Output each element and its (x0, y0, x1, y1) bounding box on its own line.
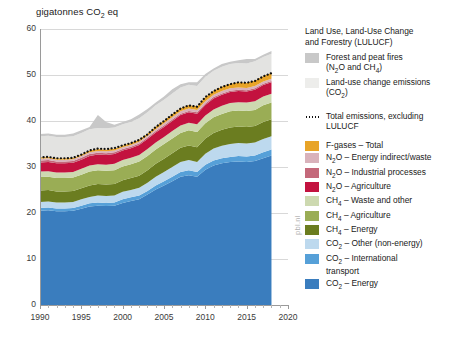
total-label-line1: Total emissions, excluding (326, 111, 423, 121)
legend-item-9[interactable]: CO2 – Energy (305, 278, 473, 291)
legend-item-total-line[interactable]: Total emissions, excluding LULUCF (305, 111, 473, 133)
legend-item-label: CH4 – Energy (326, 224, 473, 237)
x-tick-mark-minor (48, 305, 49, 308)
legend-item-4[interactable]: CH4 – Waste and other (305, 195, 473, 208)
stacked-area-svg (40, 29, 288, 305)
x-tick-mark-minor (230, 305, 231, 308)
legend-item-label: Total emissions, excluding LULUCF (326, 111, 473, 133)
x-tick-mark-minor (280, 305, 281, 308)
legend-item-7[interactable]: CO2 – Other (non-energy) (305, 238, 473, 251)
legend-item-6[interactable]: CH4 – Energy (305, 224, 473, 237)
y-axis-line (40, 29, 41, 305)
legend-swatch (305, 182, 319, 192)
legend-item-lulucf-1[interactable]: Land-use change emissions(CO2) (305, 77, 473, 101)
legend-swatch (305, 196, 319, 206)
legend-heading-line1: Land Use, Land-Use Change (305, 26, 465, 37)
x-tick-mark-minor (238, 305, 239, 308)
chart-figure: gigatonnes CO2 eq 0102030405060 19901995… (0, 0, 474, 356)
dotted-line-icon (305, 112, 319, 122)
chart-legend: Land Use, Land-Use Change and Forestry (… (305, 26, 473, 292)
legend-item-3[interactable]: N2O – Agriculture (305, 181, 473, 194)
x-tick-mark-minor (114, 305, 115, 308)
legend-item-5[interactable]: CH4 – Agriculture (305, 210, 473, 223)
x-tick-label: 2000 (103, 313, 143, 322)
x-tick-label: 1990 (20, 313, 60, 322)
x-tick-mark-minor (73, 305, 74, 308)
legend-swatch (305, 211, 319, 221)
legend-item-label: CO2 – Internationaltransport (326, 253, 473, 277)
legend-swatch (305, 53, 319, 63)
legend-item-lulucf-0[interactable]: Forest and peat fires(N2O and CH4) (305, 52, 473, 76)
x-tick-mark-minor (181, 305, 182, 308)
x-tick-mark-minor (271, 305, 272, 308)
legend-item-label: N2O – Energy indirect/waste (326, 152, 473, 165)
x-tick-mark-minor (214, 305, 215, 308)
legend-swatch (305, 225, 319, 235)
x-tick-mark-minor (98, 305, 99, 308)
legend-item-label: N2O – Agriculture (326, 181, 473, 194)
legend-item-label: CH4 – Agriculture (326, 210, 473, 223)
x-tick-mark-minor (131, 305, 132, 308)
x-tick-label: 2010 (185, 313, 225, 322)
x-tick-mark-minor (197, 305, 198, 308)
legend-item-8[interactable]: CO2 – Internationaltransport (305, 253, 473, 277)
legend-item-label: CH4 – Waste and other (326, 195, 473, 208)
legend-item-0[interactable]: F-gases – Total (305, 140, 473, 151)
y-tick-label: 10 (0, 254, 36, 263)
legend-swatch (305, 254, 319, 264)
x-tick-mark-minor (106, 305, 107, 308)
x-tick-mark-minor (222, 305, 223, 308)
legend-item-2[interactable]: N2O – Industrial processes (305, 167, 473, 180)
x-tick-label: 2020 (268, 313, 308, 322)
legend-heading-lulucf: Land Use, Land-Use Change and Forestry (… (305, 26, 465, 48)
legend-item-1[interactable]: N2O – Energy indirect/waste (305, 152, 473, 165)
legend-swatch (305, 239, 319, 249)
y-tick-label: 30 (0, 162, 36, 171)
x-tick-mark-minor (90, 305, 91, 308)
x-tick-mark-minor (65, 305, 66, 308)
legend-swatch (305, 141, 319, 151)
x-tick-mark (288, 305, 289, 309)
plot-region: 0102030405060 19901995200020052010201520… (40, 29, 288, 305)
source-watermark: pbl.nl (293, 215, 302, 235)
x-tick-mark-minor (255, 305, 256, 308)
legend-group-main: F-gases – TotalN2O – Energy indirect/was… (305, 140, 473, 291)
y-tick-label: 60 (0, 24, 36, 33)
y-tick-label: 50 (0, 70, 36, 79)
x-tick-mark-minor (263, 305, 264, 308)
x-tick-mark-minor (189, 305, 190, 308)
legend-heading-line2: and Forestry (LULUCF) (305, 37, 465, 48)
x-tick-mark (81, 305, 82, 309)
chart-area: gigatonnes CO2 eq 0102030405060 19901995… (0, 0, 300, 356)
legend-group-lulucf: Forest and peat fires(N2O and CH4)Land-u… (305, 52, 473, 101)
x-tick-mark (164, 305, 165, 309)
y-tick-label: 0 (0, 300, 36, 309)
legend-item-label: N2O – Industrial processes (326, 167, 473, 180)
x-tick-label: 2015 (227, 313, 267, 322)
legend-item-label: CO2 – Energy (326, 278, 473, 291)
x-tick-label: 2005 (144, 313, 184, 322)
legend-item-label: Forest and peat fires(N2O and CH4) (326, 52, 473, 76)
total-label-line2: LULUCF (326, 121, 359, 131)
plot-inner (40, 29, 288, 305)
legend-item-label: F-gases – Total (326, 140, 473, 151)
x-tick-label: 1995 (61, 313, 101, 322)
x-tick-mark-minor (139, 305, 140, 308)
x-tick-mark (247, 305, 248, 309)
legend-swatch (305, 168, 319, 178)
legend-swatch (305, 153, 319, 163)
y-tick-label: 40 (0, 116, 36, 125)
y-tick-label: 20 (0, 208, 36, 217)
x-tick-mark-minor (172, 305, 173, 308)
x-tick-mark-minor (156, 305, 157, 308)
x-tick-mark (205, 305, 206, 309)
chart-title: gigatonnes CO2 eq (36, 6, 118, 19)
x-tick-mark-minor (57, 305, 58, 308)
legend-spacer (305, 102, 473, 111)
legend-swatch (305, 279, 319, 289)
legend-swatch (305, 78, 319, 88)
x-tick-mark-minor (147, 305, 148, 308)
legend-item-label: Land-use change emissions(CO2) (326, 77, 473, 101)
legend-item-label: CO2 – Other (non-energy) (326, 238, 473, 251)
x-tick-mark (123, 305, 124, 309)
